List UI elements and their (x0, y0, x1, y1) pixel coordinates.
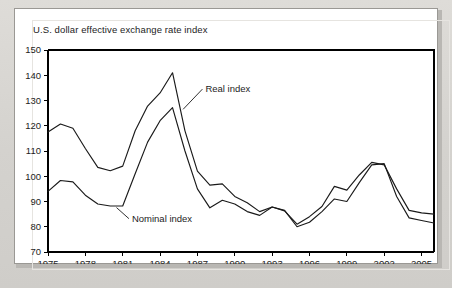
x-tick-label: 1993 (262, 258, 283, 264)
x-tick-label: 2002 (374, 258, 395, 264)
data-series-group (48, 73, 434, 227)
real-index-leader-line (183, 89, 202, 109)
x-tick-label: 1996 (299, 258, 320, 264)
real-index-annotation-label: Real index (205, 83, 250, 94)
y-tick-label: 130 (25, 95, 41, 106)
y-tick-label: 100 (25, 171, 41, 182)
line-chart-plot: 708090100110120130140150 197519781981198… (14, 8, 438, 264)
series-line-real-index (48, 73, 434, 224)
y-axis-ticks: 708090100110120130140150 (25, 44, 48, 257)
y-tick-label: 150 (25, 44, 41, 55)
x-tick-label: 1987 (187, 258, 208, 264)
x-tick-label: 1978 (75, 258, 96, 264)
x-tick-label: 1999 (336, 258, 357, 264)
y-tick-label: 140 (25, 70, 41, 81)
nominal-index-annotation-label: Nominal index (132, 213, 192, 224)
y-tick-label: 80 (30, 221, 41, 232)
x-tick-label: 1990 (224, 258, 245, 264)
x-tick-label: 2005 (411, 258, 432, 264)
x-axis-ticks: 1975197819811984198719901993199619992002… (37, 252, 432, 264)
x-tick-label: 1975 (37, 258, 58, 264)
x-tick-label: 1984 (149, 258, 170, 264)
y-tick-label: 70 (30, 246, 41, 257)
figure-root: U.S. dollar effective exchange rate inde… (0, 0, 452, 288)
y-tick-label: 120 (25, 120, 41, 131)
x-tick-label: 1981 (112, 258, 133, 264)
y-tick-label: 90 (30, 196, 41, 207)
axis-lines (48, 50, 434, 252)
y-tick-label: 110 (26, 145, 41, 156)
series-line-nominal-index (48, 108, 434, 227)
nominal-index-leader-line (116, 208, 128, 219)
